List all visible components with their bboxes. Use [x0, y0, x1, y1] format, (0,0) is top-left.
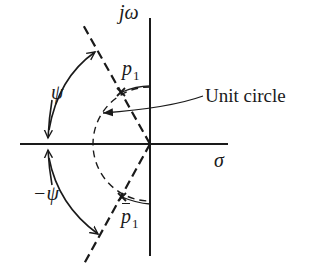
s-plane-diagram: jω σ p1 p1 ψ −ψ Unit circle	[0, 0, 321, 279]
real-axis-label: σ	[214, 150, 224, 170]
lower-pole-label: p1	[121, 206, 139, 226]
upper-pole-subscript: 1	[133, 68, 140, 83]
upper-pole-label: p1	[122, 58, 140, 78]
lower-radial-line	[84, 144, 150, 264]
upper-radial-line	[82, 23, 150, 144]
diagram-canvas	[0, 0, 321, 279]
upper-pole-symbol: p	[122, 57, 132, 79]
lower-pole-symbol: p	[121, 206, 131, 226]
neg-psi-angle-label: −ψ	[33, 183, 59, 203]
unit-circle-leader	[103, 96, 203, 113]
psi-angle-label: ψ	[51, 82, 63, 102]
imaginary-axis-label: jω	[119, 2, 139, 22]
unit-circle-label: Unit circle	[205, 86, 286, 105]
lower-pole-subscript: 1	[132, 216, 139, 231]
